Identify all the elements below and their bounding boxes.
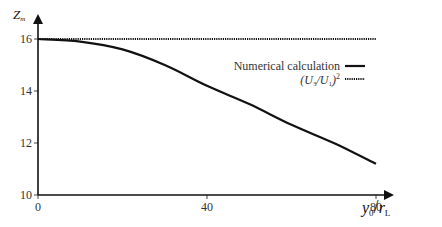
x-tick-label: 0	[35, 200, 41, 214]
chart-canvas: 1012141604080 Zm y0/rL Numerical calcula…	[0, 0, 442, 227]
legend: Numerical calculation (U3/U1)2	[234, 59, 365, 88]
y-tick-label: 14	[20, 84, 32, 98]
x-axis-label: y0/rL	[360, 197, 390, 218]
series-line-0	[38, 39, 376, 164]
y-tick-label: 16	[20, 32, 32, 46]
legend-label-ratio: (U3/U1)2	[300, 72, 340, 88]
x-axis-arrow-icon	[384, 190, 394, 200]
y-axis-arrow-icon	[33, 14, 43, 24]
plot-curves	[38, 39, 376, 164]
y-tick-label: 10	[20, 188, 32, 202]
y-tick-label: 12	[20, 136, 32, 150]
legend-label-numerical: Numerical calculation	[234, 59, 340, 73]
y-axis-label: Zm	[13, 7, 25, 23]
x-tick-label: 40	[201, 200, 213, 214]
